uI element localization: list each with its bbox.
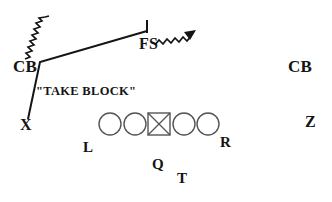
cb-left-squiggle-icon: [25, 16, 49, 59]
label-free-safety: FS: [139, 36, 158, 52]
fs-squiggle-arrow-icon: [155, 30, 196, 45]
label-quarterback: Q: [152, 157, 164, 172]
offensive-line-marker-center: [148, 113, 170, 135]
football-play-diagram: CB FS CB X Z L R Q T "TAKE BLOCK": [0, 0, 332, 202]
fs-arrowhead-icon: [184, 30, 196, 40]
label-right-end: R: [220, 135, 231, 150]
route-x-to-fs: [28, 20, 147, 119]
label-receiver-z: Z: [305, 114, 316, 130]
label-tailback: T: [177, 171, 187, 186]
label-left-end: L: [83, 140, 93, 155]
annotation-take-block: "TAKE BLOCK": [36, 85, 136, 98]
offensive-line-marker-right-guard: [173, 113, 195, 135]
play-diagram-canvas: [0, 0, 332, 202]
label-cornerback-right: CB: [288, 58, 312, 75]
offensive-line-marker-right-tackle: [197, 113, 219, 135]
offensive-line-group: [99, 113, 219, 135]
offensive-line-marker-left-tackle: [99, 113, 121, 135]
offensive-line-marker-left-guard: [124, 113, 146, 135]
label-receiver-x: X: [20, 117, 32, 133]
label-cornerback-left: CB: [13, 58, 37, 75]
route-path: [28, 31, 147, 119]
